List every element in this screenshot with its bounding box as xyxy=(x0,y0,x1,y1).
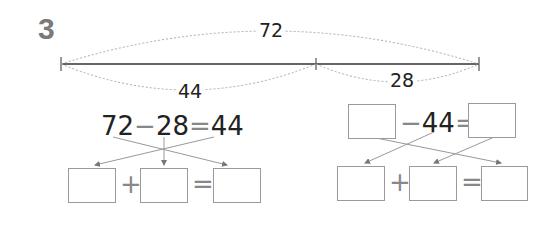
answer-box-right-top-1[interactable] xyxy=(348,104,396,139)
subtrahend: 28 xyxy=(156,111,189,141)
arrow-72 xyxy=(113,137,227,165)
left-part-label: 44 xyxy=(176,82,204,101)
answer-box-right-top-2[interactable] xyxy=(468,103,516,138)
right-part-label: 28 xyxy=(388,71,416,90)
left-equation: 72−28=44 xyxy=(101,113,244,139)
difference: 44 xyxy=(211,111,244,141)
plus-sign: + xyxy=(120,171,142,197)
right-equation: −44= xyxy=(400,110,477,136)
subtrahend: 44 xyxy=(422,108,455,138)
answer-box-left-2[interactable] xyxy=(140,168,188,203)
total-label: 72 xyxy=(257,21,285,40)
minus-sign: − xyxy=(400,108,422,138)
plus-sign: + xyxy=(389,169,411,195)
minuend: 72 xyxy=(101,111,134,141)
answer-box-left-3[interactable] xyxy=(213,168,261,203)
equals-sign: = xyxy=(189,111,211,141)
answer-box-right-1[interactable] xyxy=(337,166,385,201)
answer-box-right-2[interactable] xyxy=(409,166,457,201)
minus-sign: − xyxy=(134,111,156,141)
answer-box-right-3[interactable] xyxy=(481,166,528,201)
equals-sign: = xyxy=(461,169,483,195)
equals-sign: = xyxy=(192,171,214,197)
arrow-44 xyxy=(95,137,214,165)
answer-box-left-1[interactable] xyxy=(68,168,116,203)
